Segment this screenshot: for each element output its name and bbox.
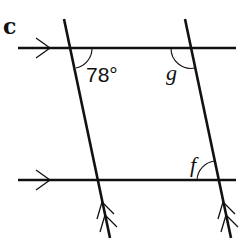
left-transversal-line (64, 19, 110, 238)
parallel-lines-diagram: c 78° g f (0, 0, 245, 248)
right-transversal-line (185, 19, 231, 238)
angle-label-g: g (166, 60, 177, 85)
angle-label-f: f (190, 152, 199, 177)
angle-arc-f (197, 161, 215, 180)
angle-label-78: 78° (86, 63, 118, 86)
part-label: c (3, 13, 16, 39)
